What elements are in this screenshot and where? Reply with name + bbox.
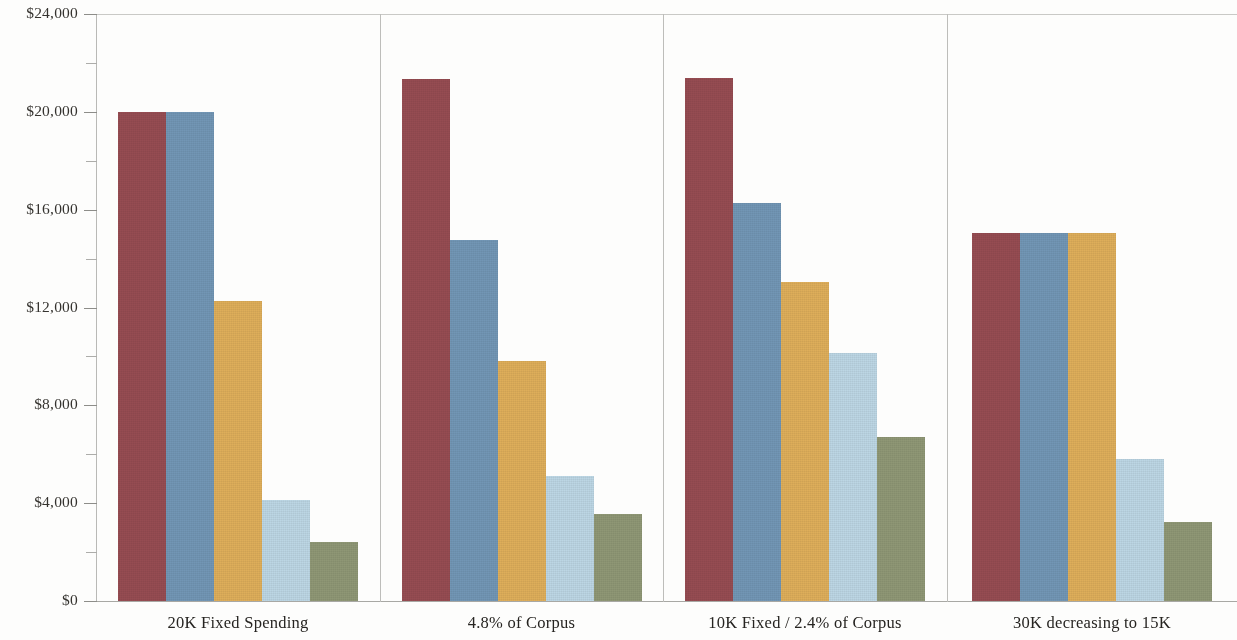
bar-series-3-group-2[interactable] [498,361,546,601]
bar-fill [546,476,594,601]
bar-fill [118,112,166,601]
y-axis-tick-label: $8,000 [0,395,78,413]
bar-series-2-group-4[interactable] [1020,233,1068,601]
y-axis-tick-label: $20,000 [0,102,78,120]
bar-series-3-group-4[interactable] [1068,233,1116,601]
y-axis-tick [84,308,97,309]
bar-series-5-group-2[interactable] [594,514,642,601]
bar-series-4-group-4[interactable] [1116,459,1164,601]
bar-series-5-group-1[interactable] [310,542,358,601]
group-divider [663,14,664,602]
bar-fill [781,282,829,601]
bar-series-1-group-1[interactable] [118,112,166,601]
bar-fill [1068,233,1116,601]
bar-series-4-group-1[interactable] [262,500,310,601]
bar-series-1-group-2[interactable] [402,79,450,601]
y-axis-tick [84,210,97,211]
bar-chart: $24,000$20,000$16,000$12,000$8,000$4,000… [0,0,1237,640]
bar-series-2-group-3[interactable] [733,203,781,601]
bar-fill [498,361,546,601]
y-axis-minor-tick [86,356,97,357]
bar-fill [166,112,214,601]
bar-fill [450,240,498,601]
bar-fill [1020,233,1068,601]
category-label-2: 4.8% of Corpus [380,613,663,633]
y-axis-tick [84,601,97,602]
y-axis-tick-label: $24,000 [0,4,78,22]
bar-series-4-group-2[interactable] [546,476,594,601]
category-label-1: 20K Fixed Spending [96,613,380,633]
y-axis-tick [84,405,97,406]
bar-fill [685,78,733,601]
y-axis-tick [84,112,97,113]
bar-fill [594,514,642,601]
bar-fill [214,301,262,601]
group-divider [380,14,381,602]
bar-fill [733,203,781,601]
bar-series-4-group-3[interactable] [829,353,877,601]
y-axis-tick-label: $4,000 [0,493,78,511]
bar-series-5-group-3[interactable] [877,437,925,601]
bar-fill [1116,459,1164,601]
bar-series-5-group-4[interactable] [1164,522,1212,601]
bar-fill [877,437,925,601]
bar-series-2-group-2[interactable] [450,240,498,601]
y-axis-tick-label: $12,000 [0,298,78,316]
y-axis-minor-tick [86,552,97,553]
bar-fill [972,233,1020,601]
bar-series-3-group-3[interactable] [781,282,829,601]
y-axis-minor-tick [86,161,97,162]
y-axis-tick-label: $16,000 [0,200,78,218]
y-axis-tick [84,503,97,504]
bar-fill [262,500,310,601]
bar-fill [829,353,877,601]
category-label-4: 30K decreasing to 15K [947,613,1237,633]
y-axis-minor-tick [86,63,97,64]
bar-series-2-group-1[interactable] [166,112,214,601]
bar-fill [402,79,450,601]
y-axis-tick [84,14,97,15]
bar-series-1-group-4[interactable] [972,233,1020,601]
y-axis-tick-label: $0 [0,591,78,609]
y-axis-minor-tick [86,259,97,260]
y-axis-minor-tick [86,454,97,455]
x-axis-line [96,601,1237,602]
bar-fill [1164,522,1212,601]
category-label-3: 10K Fixed / 2.4% of Corpus [663,613,947,633]
bar-series-3-group-1[interactable] [214,301,262,601]
group-divider [947,14,948,602]
bar-series-1-group-3[interactable] [685,78,733,601]
bar-fill [310,542,358,601]
plot-top-rule [96,14,1237,15]
